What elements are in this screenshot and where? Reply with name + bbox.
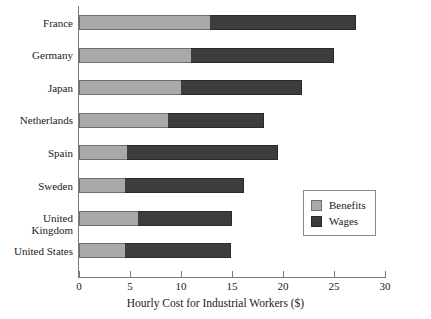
x-axis-tick-label: 30 bbox=[365, 280, 405, 292]
legend-label: Benefits bbox=[329, 199, 366, 211]
bar-segment-benefits bbox=[79, 178, 125, 193]
x-axis-tick bbox=[334, 271, 335, 277]
x-axis-tick-label: 10 bbox=[161, 280, 201, 292]
y-axis-line bbox=[78, 6, 79, 278]
legend-item-wages: Wages bbox=[311, 213, 366, 229]
bar-row bbox=[79, 145, 278, 160]
y-axis-category-labels: FranceGermanyJapanNetherlandsSpainSweden… bbox=[0, 0, 78, 319]
y-axis-label-japan: Japan bbox=[0, 82, 78, 94]
legend-item-benefits: Benefits bbox=[311, 197, 366, 213]
y-axis-label-germany: Germany bbox=[0, 49, 78, 61]
bar-row bbox=[79, 80, 302, 95]
y-axis-label-united-states: United States bbox=[0, 245, 78, 257]
bar-segment-wages bbox=[127, 145, 278, 160]
legend-swatch-wages-icon bbox=[311, 216, 322, 227]
x-axis-tick-label: 15 bbox=[212, 280, 252, 292]
x-axis-tick-label: 25 bbox=[314, 280, 354, 292]
bar-row bbox=[79, 243, 231, 258]
bar-segment-benefits bbox=[79, 113, 168, 128]
x-axis-tick bbox=[232, 271, 233, 277]
bar-segment-wages bbox=[138, 211, 232, 226]
x-axis-tick bbox=[130, 271, 131, 277]
x-axis-tick bbox=[385, 271, 386, 277]
y-axis-label-france: France bbox=[0, 17, 78, 29]
bar-segment-wages bbox=[181, 80, 302, 95]
bar-row bbox=[79, 211, 232, 226]
x-axis-tick-label: 20 bbox=[263, 280, 303, 292]
y-axis-label-netherlands: Netherlands bbox=[0, 114, 78, 126]
bar-segment-wages bbox=[168, 113, 264, 128]
x-axis-tick bbox=[181, 271, 182, 277]
bar-segment-benefits bbox=[79, 211, 138, 226]
bar-row bbox=[79, 48, 334, 63]
x-axis-tick-label: 0 bbox=[59, 280, 99, 292]
bar-segment-benefits bbox=[79, 80, 181, 95]
chart-legend: BenefitsWages bbox=[303, 190, 376, 236]
y-axis-label-sweden: Sweden bbox=[0, 180, 78, 192]
bar-segment-benefits bbox=[79, 243, 125, 258]
x-axis-tick bbox=[79, 271, 80, 277]
x-axis-line bbox=[78, 277, 386, 278]
x-axis-tick-label: 5 bbox=[110, 280, 150, 292]
bar-segment-wages bbox=[125, 243, 231, 258]
x-axis-title: Hourly Cost for Industrial Workers ($) bbox=[0, 297, 431, 309]
bar-segment-benefits bbox=[79, 15, 210, 30]
bar-row bbox=[79, 178, 244, 193]
bar-segment-benefits bbox=[79, 48, 191, 63]
legend-swatch-benefits-icon bbox=[311, 200, 322, 211]
bar-segment-wages bbox=[125, 178, 244, 193]
bar-segment-benefits bbox=[79, 145, 127, 160]
bar-segment-wages bbox=[191, 48, 334, 63]
x-axis-tick bbox=[283, 271, 284, 277]
y-axis-label-united-kingdom: United Kingdom bbox=[0, 212, 78, 236]
bar-row bbox=[79, 113, 264, 128]
y-axis-label-spain: Spain bbox=[0, 147, 78, 159]
stacked-bar-chart: FranceGermanyJapanNetherlandsSpainSweden… bbox=[0, 0, 431, 319]
legend-label: Wages bbox=[329, 215, 358, 227]
bar-segment-wages bbox=[210, 15, 357, 30]
bar-row bbox=[79, 15, 356, 30]
